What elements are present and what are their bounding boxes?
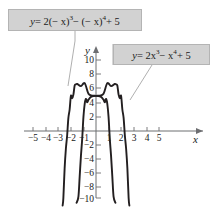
callout-leader-lines — [68, 31, 152, 100]
callout-right-op2: − x — [160, 50, 174, 61]
y-tick-label: −2 — [84, 140, 94, 150]
x-tick-label: −5 — [28, 133, 38, 143]
math-figure: −5 −4 −3 −2 −1 1 2 3 4 5 10 8 6 4 2 −2 −… — [0, 0, 218, 213]
y-tick-labels: 10 8 6 4 2 −2 −4 −6 −8 −10 — [79, 55, 94, 204]
y-tick-label: 6 — [89, 83, 94, 93]
y-tick-label: 4 — [89, 98, 94, 108]
y-axis-ticks — [96, 60, 101, 198]
leader-left-line — [68, 41, 75, 86]
x-tick-label: 3 — [132, 133, 137, 143]
y-axis-label: y — [84, 44, 90, 56]
coordinate-plot: −5 −4 −3 −2 −1 1 2 3 4 5 10 8 6 4 2 −2 −… — [0, 0, 218, 213]
y-tick-label: 2 — [89, 112, 94, 122]
y-tick-label: −10 — [79, 194, 94, 204]
axes-group — [24, 46, 203, 198]
y-tick-label: 8 — [89, 69, 94, 79]
x-tick-label: 4 — [145, 133, 150, 143]
y-tick-label: −8 — [84, 182, 94, 192]
callout-left-eq: = 2(− x) — [35, 15, 70, 26]
callout-left-op2: − (− x) — [73, 15, 102, 26]
x-axis-label: x — [192, 133, 198, 145]
callout-right-eq: = 2x — [137, 50, 156, 61]
x-tick-label: −4 — [41, 133, 51, 143]
callout-right-tail: + 5 — [177, 50, 191, 61]
y-axis-arrow — [93, 46, 99, 53]
x-tick-label: 5 — [157, 133, 162, 143]
callout-left-tail: + 5 — [106, 15, 120, 26]
callout-right-equation: y= 2x3− x4+ 5 — [113, 44, 210, 65]
x-tick-labels: −5 −4 −3 −2 −1 1 2 3 4 5 — [28, 133, 162, 143]
leader-right-line — [130, 65, 152, 100]
callout-left-equation: y= 2(− x)3− (− x)4+ 5 — [8, 9, 142, 31]
y-tick-label: −4 — [84, 154, 94, 164]
y-tick-label: −6 — [84, 168, 94, 178]
x-tick-label: −3 — [53, 133, 63, 143]
x-tick-label: 2 — [119, 133, 124, 143]
y-tick-label: 10 — [85, 55, 95, 65]
